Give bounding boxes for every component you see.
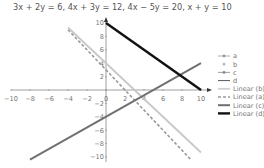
x-tick-label: 10 [197,95,205,103]
x-tick-label: −4 [63,95,73,103]
chart-plot: −10−8−6−4−20246810 108642−2−4−6−8−10 abc… [0,0,264,168]
legend: abcdLinear (b)Linear (a)Linear (c)Linear… [218,52,264,117]
x-tick-label: 8 [180,95,184,103]
legend-label: b [233,61,237,69]
legend-label: a [233,52,237,60]
legend-label: Linear (b) [233,85,264,93]
y-tick-label: −2 [94,100,104,108]
legend-item: c [218,69,237,77]
legend-item: d [218,77,237,85]
legend-label: Linear (c) [233,102,264,110]
legend-item: Linear (c) [218,102,264,110]
legend-item: a [218,52,237,60]
series-line-c [30,63,201,159]
x-tick-label: −2 [82,95,92,103]
y-tick-label: −8 [94,140,104,148]
x-tick-label: −8 [25,95,35,103]
legend-label: Linear (a) [233,93,264,101]
x-tick-label: 6 [161,95,165,103]
legend-item: b [223,61,238,69]
x-tick-label: −10 [4,95,18,103]
y-tick-label: 10 [96,19,104,27]
y-tick-label: 6 [100,46,104,54]
x-tick-label: 2 [123,95,127,103]
series-line-d [106,23,201,90]
legend-label: c [233,69,237,77]
x-tick-labels: −10−8−6−4−20246810 [4,89,205,103]
x-tick-label: −6 [44,95,54,103]
legend-label: Linear (d) [233,110,264,118]
y-tick-label: −10 [90,153,104,161]
x-tick-label: 0 [104,95,108,103]
legend-label: d [233,77,237,85]
series-lines [30,23,201,160]
y-tick-label: 8 [100,33,104,41]
legend-item: Linear (d) [218,110,264,118]
y-tick-label: −6 [94,127,104,135]
legend-item: Linear (a) [218,93,264,101]
y-tick-label: 2 [100,73,104,81]
legend-item: Linear (b) [218,85,264,93]
